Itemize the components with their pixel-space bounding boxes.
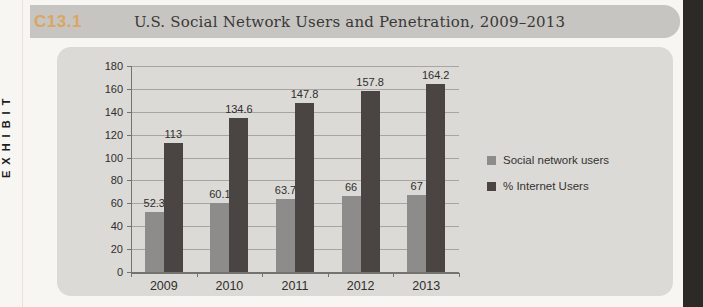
x-category-label: 2009 bbox=[136, 279, 192, 293]
bar-value-label: 164.2 bbox=[414, 69, 458, 81]
bar bbox=[276, 199, 295, 272]
legend-label-internet-users: % Internet Users bbox=[503, 180, 589, 192]
y-tick-label: 20 bbox=[89, 243, 123, 255]
legend-item-internet-users: % Internet Users bbox=[487, 180, 609, 192]
exhibit-header-band: C13.1 U.S. Social Network Users and Pene… bbox=[30, 5, 680, 38]
bar bbox=[145, 212, 164, 272]
x-category-label: 2011 bbox=[267, 279, 323, 293]
y-tick-label: 160 bbox=[89, 83, 123, 95]
bar bbox=[361, 91, 380, 272]
y-tick-label: 180 bbox=[89, 60, 123, 72]
x-category-label: 2012 bbox=[333, 279, 389, 293]
bar-value-label: 157.8 bbox=[348, 76, 392, 88]
chart-legend: Social network users % Internet Users bbox=[487, 154, 609, 192]
exhibit-code: C13.1 bbox=[34, 12, 120, 32]
bar bbox=[342, 196, 361, 272]
chart-panel: 02040608010012014016018052.3113200960.11… bbox=[57, 47, 673, 296]
y-tick-label: 40 bbox=[89, 220, 123, 232]
x-category-label: 2010 bbox=[201, 279, 257, 293]
x-axis-line bbox=[131, 272, 459, 274]
gridline bbox=[131, 66, 459, 67]
bar bbox=[426, 84, 445, 272]
x-axis-tick bbox=[393, 273, 394, 277]
bar bbox=[229, 118, 248, 272]
legend-label-social-network-users: Social network users bbox=[503, 154, 609, 166]
y-tick-label: 80 bbox=[89, 174, 123, 186]
x-axis-tick bbox=[459, 273, 460, 277]
bar-value-label: 147.8 bbox=[283, 88, 327, 100]
legend-swatch-internet-users bbox=[487, 182, 496, 191]
legend-swatch-social-network-users bbox=[487, 156, 496, 165]
page-gutter-line bbox=[22, 0, 23, 307]
legend-item-social-network-users: Social network users bbox=[487, 154, 609, 166]
bar-value-label: 134.6 bbox=[217, 103, 261, 115]
bar bbox=[295, 103, 314, 272]
y-tick-label: 120 bbox=[89, 129, 123, 141]
bar bbox=[407, 195, 426, 272]
y-axis-line bbox=[131, 66, 132, 272]
x-axis-tick bbox=[262, 273, 263, 277]
bar bbox=[164, 143, 183, 272]
exhibit-title: U.S. Social Network Users and Penetratio… bbox=[134, 13, 565, 31]
y-tick-label: 100 bbox=[89, 152, 123, 164]
x-axis-tick bbox=[197, 273, 198, 277]
page-edge-strip bbox=[683, 0, 703, 307]
scanned-textbook-page: EXHIBIT C13.1 U.S. Social Network Users … bbox=[0, 0, 703, 307]
y-tick-label: 60 bbox=[89, 197, 123, 209]
y-tick-label: 0 bbox=[89, 266, 123, 278]
bar-value-label: 113 bbox=[151, 128, 195, 140]
x-category-label: 2013 bbox=[398, 279, 454, 293]
x-axis-tick bbox=[328, 273, 329, 277]
exhibit-sidebar-label: EXHIBIT bbox=[0, 6, 19, 178]
x-axis-tick bbox=[131, 273, 132, 277]
y-tick-label: 140 bbox=[89, 106, 123, 118]
bar bbox=[210, 203, 229, 272]
